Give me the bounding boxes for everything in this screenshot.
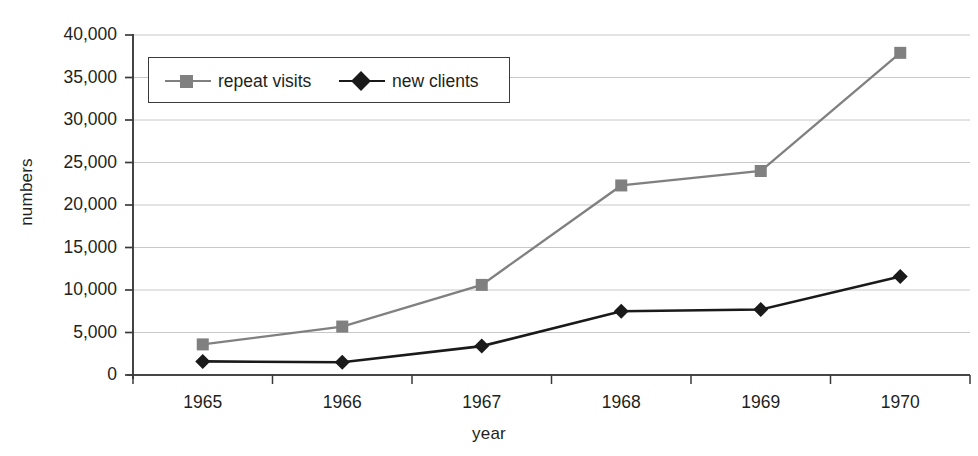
legend-swatch-square-icon (165, 72, 211, 90)
line-chart: numbers year 05,00010,00015,00020,00025,… (0, 0, 978, 456)
data-point-marker (614, 304, 629, 319)
data-point-marker (894, 47, 906, 59)
data-point-marker (753, 302, 768, 317)
legend-item-new-clients: new clients (339, 67, 479, 95)
x-axis-tick-marks (133, 375, 970, 384)
data-point-marker (615, 179, 627, 191)
data-point-marker (893, 269, 908, 284)
data-point-marker (755, 165, 767, 177)
data-point-marker (476, 279, 488, 291)
legend-label-new-clients: new clients (392, 71, 479, 92)
data-point-marker (336, 321, 348, 333)
data-point-marker (335, 355, 350, 370)
chart-legend: repeat visits new clients (148, 57, 510, 103)
legend-swatch-diamond-icon (339, 72, 385, 90)
data-point-marker (195, 354, 210, 369)
series-new-clients (195, 269, 908, 370)
y-axis-tick-marks (125, 35, 133, 375)
legend-label-repeat-visits: repeat visits (218, 71, 311, 92)
data-point-marker (474, 339, 489, 354)
data-point-marker (197, 338, 209, 350)
legend-item-repeat-visits: repeat visits (165, 67, 311, 95)
